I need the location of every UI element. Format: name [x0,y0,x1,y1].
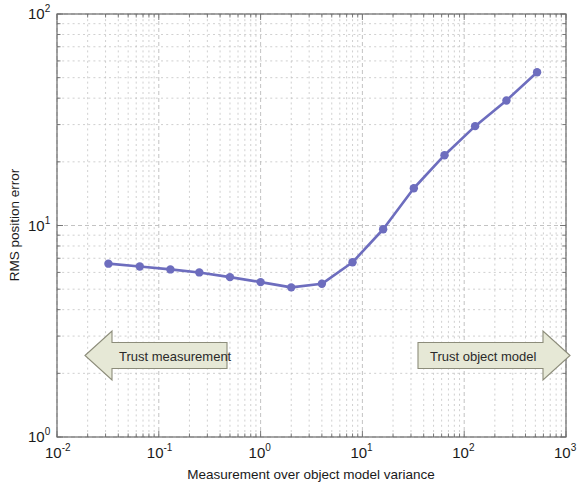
figure-container: Trust measurement Trust object model 10-… [0,0,584,493]
data-point [104,259,112,267]
data-point [379,225,387,233]
data-point [318,280,326,288]
y-axis-label: RMS position error [7,168,22,281]
data-point [533,68,541,76]
data-point [440,151,448,159]
data-point [166,265,174,273]
data-point [348,258,356,266]
data-point [136,262,144,270]
chart-svg: Trust measurement Trust object model 10-… [0,0,584,493]
data-point [287,283,295,291]
x-axis-label: Measurement over object model variance [187,467,435,482]
trust-object-model-label: Trust object model [430,349,537,364]
data-point [256,278,264,286]
data-point [195,268,203,276]
data-point [471,122,479,130]
data-point [226,273,234,281]
data-point [502,96,510,104]
trust-measurement-label: Trust measurement [119,349,232,364]
data-point [410,184,418,192]
